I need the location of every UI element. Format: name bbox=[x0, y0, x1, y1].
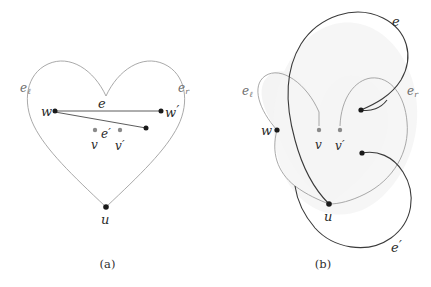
vertex-u-a bbox=[103, 204, 109, 210]
label-vertex-u-b: u bbox=[324, 210, 332, 223]
label-curve-e-prime-b: e′ bbox=[391, 240, 402, 254]
panel-b: eℓ er e e′ w v v′ u (b) bbox=[215, 0, 431, 287]
label-e-ell-b: eℓ bbox=[242, 85, 253, 99]
label-vertex-w-a: w bbox=[41, 105, 52, 118]
label-curve-e-b: e bbox=[392, 15, 400, 28]
vertex-v-b bbox=[317, 128, 321, 132]
edge-e-prime-a bbox=[55, 112, 146, 128]
label-vertex-v-a: v bbox=[91, 139, 98, 151]
vertex-v-prime-b bbox=[338, 128, 342, 132]
vertex-v-prime-a bbox=[118, 128, 122, 132]
panel-a: eℓ er e e′ w w′ v v′ u (a) bbox=[0, 0, 215, 287]
label-vertex-v-prime-b: v′ bbox=[335, 139, 345, 152]
vertex-w-b bbox=[274, 127, 279, 132]
label-edge-e-a: e bbox=[98, 97, 106, 110]
label-vertex-u-a: u bbox=[101, 213, 109, 226]
label-e-r-b: er bbox=[407, 85, 418, 99]
vertex-e-prime-endpoint-b bbox=[359, 150, 364, 155]
vertex-v-a bbox=[93, 128, 97, 132]
label-vertex-w-b: w bbox=[261, 124, 272, 137]
vertex-w-a bbox=[53, 109, 58, 114]
heart-right-lobe-a bbox=[106, 61, 185, 207]
label-vertex-w-prime-a: w′ bbox=[165, 105, 179, 119]
vertex-e-prime-endpoint-a bbox=[144, 126, 149, 131]
caption-panel-a: (a) bbox=[0, 257, 215, 271]
panel-a-drawing bbox=[0, 0, 215, 287]
vertex-e-endpoint-b bbox=[358, 107, 363, 112]
vertex-u-b bbox=[326, 201, 332, 207]
label-vertex-v-b: v bbox=[315, 139, 322, 151]
caption-panel-b: (b) bbox=[215, 257, 431, 271]
vertex-w-prime-a bbox=[159, 109, 164, 114]
label-e-r-a: er bbox=[178, 82, 189, 96]
label-vertex-v-prime-a: v′ bbox=[115, 139, 125, 152]
figure-container: eℓ er e e′ w w′ v v′ u (a) bbox=[0, 0, 431, 287]
label-edge-e-prime-a: e′ bbox=[101, 127, 111, 140]
label-e-ell-a: eℓ bbox=[20, 82, 31, 96]
heart-left-lobe-a bbox=[27, 61, 106, 207]
